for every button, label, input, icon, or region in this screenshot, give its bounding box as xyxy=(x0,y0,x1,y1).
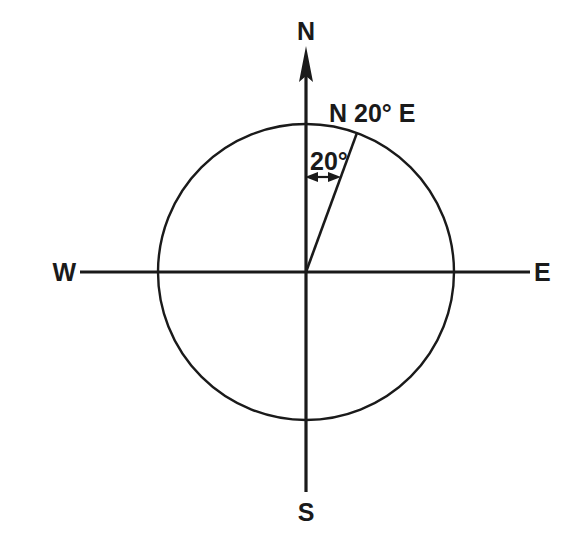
west-label: W xyxy=(52,258,76,286)
bearing-notation-label: N 20° E xyxy=(329,99,415,127)
east-label: E xyxy=(534,258,551,286)
compass-bearing-diagram: N S E W N 20° E 20° xyxy=(0,0,583,551)
north-label: N xyxy=(297,17,315,45)
angle-measure-label: 20° xyxy=(310,147,348,175)
south-label: S xyxy=(298,498,315,526)
compass-diagram-canvas: N S E W N 20° E 20° xyxy=(0,0,583,551)
